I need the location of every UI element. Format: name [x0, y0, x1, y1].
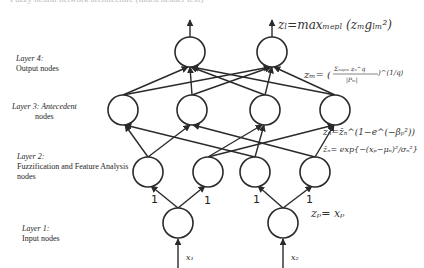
fuzzification-node-2	[193, 157, 223, 187]
equation-layer3-lhs: zₘ= (	[303, 69, 332, 80]
equation-layer1: zₚ= xₚ	[310, 207, 345, 220]
antecedent-node-3	[250, 95, 280, 125]
output-node-2	[257, 37, 287, 67]
equation-layer3-denominator: |Pₘ|	[346, 76, 358, 84]
equation-layer4: zₗ=maxₘₑₚₗ (zₘgₗₘ²)	[277, 18, 392, 32]
input-x1: x₁	[186, 253, 194, 262]
weight-label: 1	[204, 194, 211, 207]
antecedent-node-4	[320, 95, 350, 125]
fuzzification-node-1	[133, 157, 163, 187]
fuzzification-node-4	[300, 157, 330, 187]
fuzzification-node-3	[240, 157, 270, 187]
output-node-1	[175, 37, 205, 67]
antecedent-node-2	[177, 95, 207, 125]
equation-layer2-b: z̄ₙ= exp{−(xₚ−μₙ)²/σₙ²}	[322, 145, 418, 154]
input-node-1	[163, 208, 193, 238]
weight-label: 1	[306, 193, 313, 206]
weight-label: 1	[253, 193, 260, 206]
input-x2: x₂	[291, 253, 299, 262]
antecedent-node-1	[108, 95, 138, 125]
equation-layer3-exponent: )^(1/q)	[377, 69, 404, 77]
equation-layer3-numerator: Σₙₑₚₘ zₙ^q	[333, 65, 366, 73]
input-node-2	[268, 208, 298, 238]
weight-label: 1	[151, 193, 158, 206]
network-diagram: 1 1 1 1 x₁ x₂ zₗ=maxₘₑₚₗ (zₘgₗₘ²) zₘ= ( …	[0, 0, 424, 268]
equation-layer2-a: zₙ=z̄ₙ^(1−e^(−βₚ²))	[322, 127, 415, 137]
